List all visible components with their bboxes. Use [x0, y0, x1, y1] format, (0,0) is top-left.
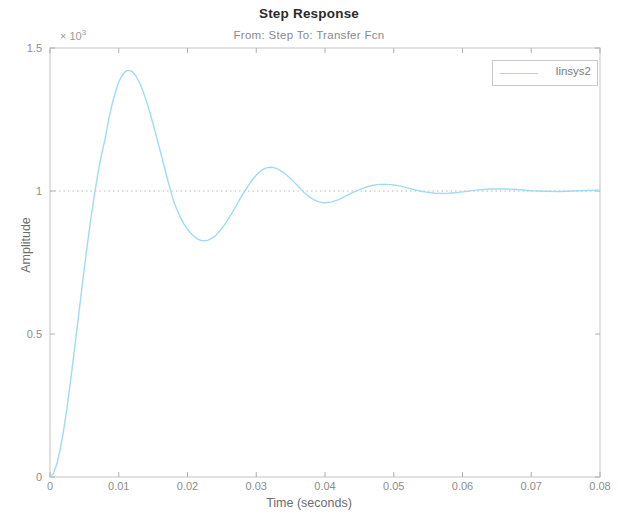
legend-line-sample — [500, 73, 538, 74]
axis-tick-marks — [50, 48, 600, 477]
legend-box[interactable]: linsys2 — [492, 60, 598, 86]
axes-frame — [50, 48, 600, 477]
legend-label-linsys2: linsys2 — [556, 65, 591, 77]
series-line-linsys2 — [50, 70, 600, 477]
step-response-figure: Step Response From: Step To: Transfer Fc… — [0, 0, 618, 518]
response-curves — [50, 70, 600, 477]
